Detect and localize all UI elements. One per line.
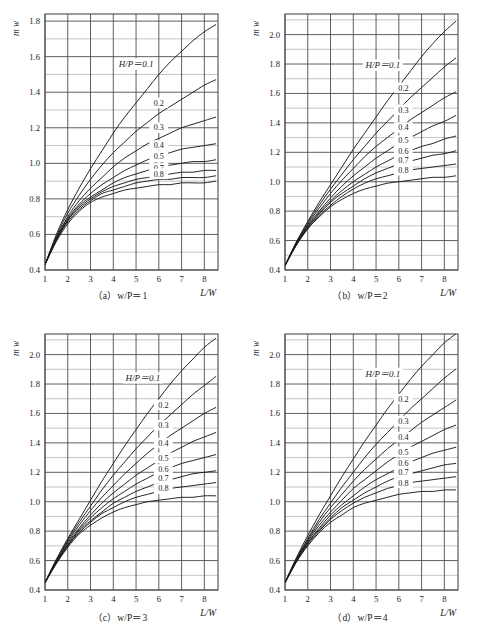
x-tick-label: 5 bbox=[374, 274, 378, 284]
curve-label: 0.8 bbox=[398, 479, 408, 488]
y-tick-label: 0.8 bbox=[269, 526, 280, 536]
data-curve bbox=[45, 455, 216, 583]
chart-svg-b: 123456780.40.60.81.01.21.41.61.82.0L/Wm … bbox=[240, 0, 480, 300]
x-tick-label: 8 bbox=[442, 594, 446, 604]
x-tick-label: 5 bbox=[134, 594, 138, 604]
curve-label: 0.5 bbox=[398, 136, 408, 145]
data-curve bbox=[285, 369, 456, 582]
y-tick-label: 1.2 bbox=[29, 467, 40, 477]
y-tick-label: 1.0 bbox=[29, 158, 40, 168]
panel-caption-a: （a）w/P＝1 bbox=[0, 288, 240, 302]
y-tick-label: 1.8 bbox=[269, 59, 280, 69]
y-tick-label: 1.4 bbox=[269, 118, 280, 128]
x-tick-label: 6 bbox=[157, 274, 162, 284]
chart-svg-d: 123456780.40.60.81.01.21.41.61.82.0L/Wm … bbox=[240, 320, 480, 620]
y-tick-label: 1.4 bbox=[29, 87, 40, 97]
chart-panel-a: 123456780.40.60.81.01.21.41.61.8L/Wm wH/… bbox=[0, 0, 240, 320]
curve-label: 0.6 bbox=[158, 465, 168, 474]
chart-panel-d: 123456780.40.60.81.01.21.41.61.82.0L/Wm … bbox=[240, 320, 480, 639]
x-tick-label: 1 bbox=[43, 274, 47, 284]
x-tick-label: 3 bbox=[88, 274, 92, 284]
y-tick-label: 1.2 bbox=[269, 467, 280, 477]
curve-label: 0.8 bbox=[154, 170, 164, 179]
data-curve bbox=[285, 58, 456, 265]
x-tick-label: 4 bbox=[111, 594, 116, 604]
data-curve bbox=[285, 116, 456, 266]
panel-caption-b: （b）w/P＝2 bbox=[240, 288, 480, 302]
y-tick-label: 1.6 bbox=[269, 88, 280, 98]
y-tick-label: 2.0 bbox=[269, 30, 280, 40]
curve-label: 0.5 bbox=[158, 454, 168, 463]
x-tick-label: 7 bbox=[179, 594, 184, 604]
plot-area-d: 123456780.40.60.81.01.21.41.61.82.0L/Wm … bbox=[240, 320, 480, 620]
y-axis-title: m w bbox=[251, 340, 261, 356]
curve-label: 0.4 bbox=[398, 123, 408, 132]
x-tick-label: 4 bbox=[351, 594, 356, 604]
plot-area-b: 123456780.40.60.81.01.21.41.61.82.0L/Wm … bbox=[240, 0, 480, 300]
data-curve bbox=[285, 164, 456, 266]
y-tick-label: 1.6 bbox=[29, 52, 40, 62]
x-tick-label: 3 bbox=[328, 594, 332, 604]
curve-label: 0.5 bbox=[398, 448, 408, 457]
x-tick-label: 2 bbox=[66, 274, 70, 284]
curve-label: 0.2 bbox=[154, 99, 164, 108]
series-head-label: H/P＝0.1 bbox=[365, 369, 401, 379]
y-tick-label: 0.4 bbox=[269, 265, 280, 275]
y-tick-label: 1.2 bbox=[269, 147, 280, 157]
curve-label: 0.7 bbox=[398, 156, 408, 165]
y-tick-label: 1.6 bbox=[269, 408, 280, 418]
x-tick-label: 4 bbox=[351, 274, 356, 284]
plot-area-c: 123456780.40.60.81.01.21.41.61.82.0L/Wm … bbox=[0, 320, 240, 620]
x-tick-label: 8 bbox=[442, 274, 446, 284]
y-tick-label: 1.8 bbox=[29, 16, 40, 26]
x-tick-label: 6 bbox=[397, 594, 402, 604]
curve-label: 0.3 bbox=[154, 123, 164, 132]
x-tick-label: 8 bbox=[202, 274, 206, 284]
data-curve bbox=[285, 425, 456, 582]
x-tick-label: 2 bbox=[306, 274, 310, 284]
y-tick-label: 0.4 bbox=[29, 265, 40, 275]
data-curve bbox=[285, 151, 456, 266]
panel-caption-c: （c）w/P＝3 bbox=[0, 610, 240, 624]
y-tick-label: 0.8 bbox=[269, 206, 280, 216]
y-tick-label: 1.2 bbox=[29, 123, 40, 133]
x-tick-label: 1 bbox=[43, 594, 47, 604]
curve-label: 0.3 bbox=[158, 421, 168, 430]
curve-label: 0.8 bbox=[158, 484, 168, 493]
y-tick-label: 0.4 bbox=[29, 585, 40, 595]
chart-svg-c: 123456780.40.60.81.01.21.41.61.82.0L/Wm … bbox=[0, 320, 240, 620]
curve-label: 0.6 bbox=[398, 459, 408, 468]
curve-group bbox=[285, 21, 456, 265]
data-curve bbox=[45, 408, 216, 583]
y-tick-label: 0.4 bbox=[269, 585, 280, 595]
y-axis-title: m w bbox=[11, 340, 21, 356]
y-tick-label: 0.8 bbox=[29, 526, 40, 536]
curve-label: 0.6 bbox=[398, 147, 408, 156]
series-head-label: H/P＝0.1 bbox=[118, 59, 154, 69]
curve-label: 0.3 bbox=[398, 106, 408, 115]
y-tick-label: 0.6 bbox=[29, 556, 40, 566]
x-tick-label: 2 bbox=[306, 594, 310, 604]
curve-label: 0.2 bbox=[398, 84, 408, 93]
y-tick-label: 1.4 bbox=[29, 438, 40, 448]
curve-label: 0.2 bbox=[398, 395, 408, 404]
curve-label: 0.4 bbox=[398, 433, 408, 442]
plot-area-a: 123456780.40.60.81.01.21.41.61.8L/Wm wH/… bbox=[0, 0, 240, 300]
y-tick-label: 1.6 bbox=[29, 408, 40, 418]
x-tick-label: 2 bbox=[66, 594, 70, 604]
data-curve bbox=[285, 92, 456, 266]
x-tick-label: 1 bbox=[283, 594, 287, 604]
data-curve bbox=[285, 21, 456, 265]
data-curve bbox=[45, 117, 216, 265]
panel-caption-d: （d）w/P＝4 bbox=[240, 610, 480, 624]
y-tick-label: 1.0 bbox=[29, 497, 40, 507]
chart-panel-b: 123456780.40.60.81.01.21.41.61.82.0L/Wm … bbox=[240, 0, 480, 320]
curve-label: 0.3 bbox=[398, 417, 408, 426]
y-tick-label: 1.0 bbox=[269, 497, 280, 507]
x-tick-label: 3 bbox=[328, 274, 332, 284]
x-tick-label: 3 bbox=[88, 594, 92, 604]
x-tick-label: 5 bbox=[134, 274, 138, 284]
y-tick-label: 1.0 bbox=[269, 177, 280, 187]
y-tick-label: 1.8 bbox=[29, 379, 40, 389]
chart-svg-a: 123456780.40.60.81.01.21.41.61.8L/Wm wH/… bbox=[0, 0, 240, 300]
